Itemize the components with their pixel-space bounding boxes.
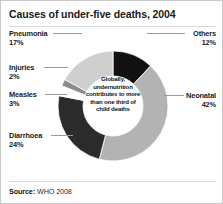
leader-line-injuries [44,67,68,68]
donut-slice-diarrhoea[interactable] [58,96,106,160]
footer-divider [9,181,216,182]
chart-card: Causes of under-five deaths, 2004 Global… [0,0,223,204]
slice-label-measles-name: Measles [9,90,37,99]
leader-line-pneumonia [53,33,82,34]
source-value: WHO 2008 [37,187,72,196]
page-title: Causes of under-five deaths, 2004 [9,8,214,21]
slice-label-injuries-percent: 2% [9,72,34,81]
slice-label-measles: Measles 3% [9,90,37,109]
donut-slice-group [58,51,168,161]
slice-label-pneumonia-percent: 17% [9,38,47,47]
source-label: Source: [9,187,35,196]
slice-label-injuries: Injuries 2% [9,63,34,82]
leader-line-others [147,33,185,34]
leader-line-diarrhoea [51,135,73,136]
slice-label-neonatal-percent: 42% [186,100,216,109]
slice-label-measles-percent: 3% [9,99,37,108]
slice-label-neonatal-name: Neonatal [186,91,216,100]
leader-line-neonatal [164,95,184,96]
slice-label-others-percent: 12% [193,38,216,47]
slice-label-diarrhoea-name: Diarrhoea [9,131,42,140]
slice-label-diarrhoea: Diarrhoea 24% [9,131,42,150]
slice-label-pneumonia-name: Pneumonia [9,29,47,38]
source-note: Source: WHO 2008 [9,187,72,196]
slice-label-pneumonia: Pneumonia 17% [9,29,47,48]
slice-label-others-name: Others [193,29,216,38]
slice-label-injuries-name: Injuries [9,63,34,72]
leader-line-measles [45,94,67,95]
slice-label-others: Others 12% [193,29,216,48]
slice-label-neonatal: Neonatal 42% [186,91,216,110]
donut-chart: Globally, undernutrition contributes to … [1,27,223,179]
slice-label-diarrhoea-percent: 24% [9,140,42,149]
